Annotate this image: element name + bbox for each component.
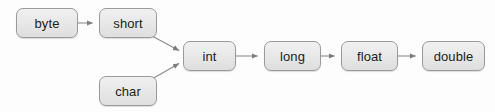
- node-byte-label: byte: [35, 17, 60, 30]
- edge-short-to-int: [152, 36, 179, 51]
- node-long-label: long: [280, 50, 305, 63]
- node-int-label: int: [202, 50, 216, 63]
- node-short[interactable]: short: [99, 8, 157, 38]
- node-byte[interactable]: byte: [16, 8, 78, 38]
- node-float-label: float: [357, 50, 382, 63]
- type-conversion-diagram: byte short char int long float double: [0, 0, 495, 112]
- edge-char-to-int: [152, 64, 179, 80]
- node-short-label: short: [113, 17, 142, 30]
- node-float[interactable]: float: [341, 41, 398, 71]
- node-char-label: char: [115, 85, 141, 98]
- node-double-label: double: [434, 50, 474, 63]
- node-char[interactable]: char: [99, 76, 157, 106]
- node-double[interactable]: double: [422, 41, 485, 71]
- node-long[interactable]: long: [264, 41, 321, 71]
- node-int[interactable]: int: [183, 41, 236, 71]
